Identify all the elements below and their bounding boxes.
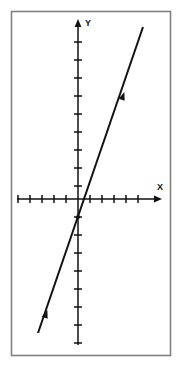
graph-figure: X Y: [0, 0, 181, 365]
x-axis-label: X: [157, 182, 163, 192]
y-axis-label: Y: [85, 18, 91, 28]
coordinate-plane-svg: X Y: [0, 0, 181, 365]
marked-point: [76, 215, 80, 219]
